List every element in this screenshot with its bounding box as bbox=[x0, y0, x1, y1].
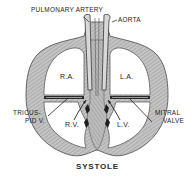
tricuspid-valve-label-line1: TRICUS- bbox=[13, 109, 41, 116]
aorta-leader bbox=[112, 20, 117, 22]
right-ventricle-label: R.V. bbox=[65, 121, 79, 128]
aorta-label: AORTA bbox=[118, 16, 141, 23]
mitral-valve-label-line1: MITRAL bbox=[155, 109, 180, 116]
pulmonary-artery-label: PULMONARY ARTERY bbox=[31, 6, 103, 13]
left-ventricle-label: L.V. bbox=[117, 121, 130, 128]
mitral-valve-label-line2: VALVE bbox=[163, 117, 184, 124]
left-atrium-label: L.A. bbox=[120, 73, 133, 80]
tricuspid-valve-label-line2: PID V. bbox=[25, 117, 45, 124]
heart-illustration bbox=[0, 0, 195, 180]
diagram-title: SYSTOLE bbox=[76, 163, 119, 170]
right-atrium-label: R.A. bbox=[60, 73, 74, 80]
heart-systole-diagram: PULMONARY ARTERY AORTA R.A. L.A. R.V. L.… bbox=[0, 0, 195, 180]
